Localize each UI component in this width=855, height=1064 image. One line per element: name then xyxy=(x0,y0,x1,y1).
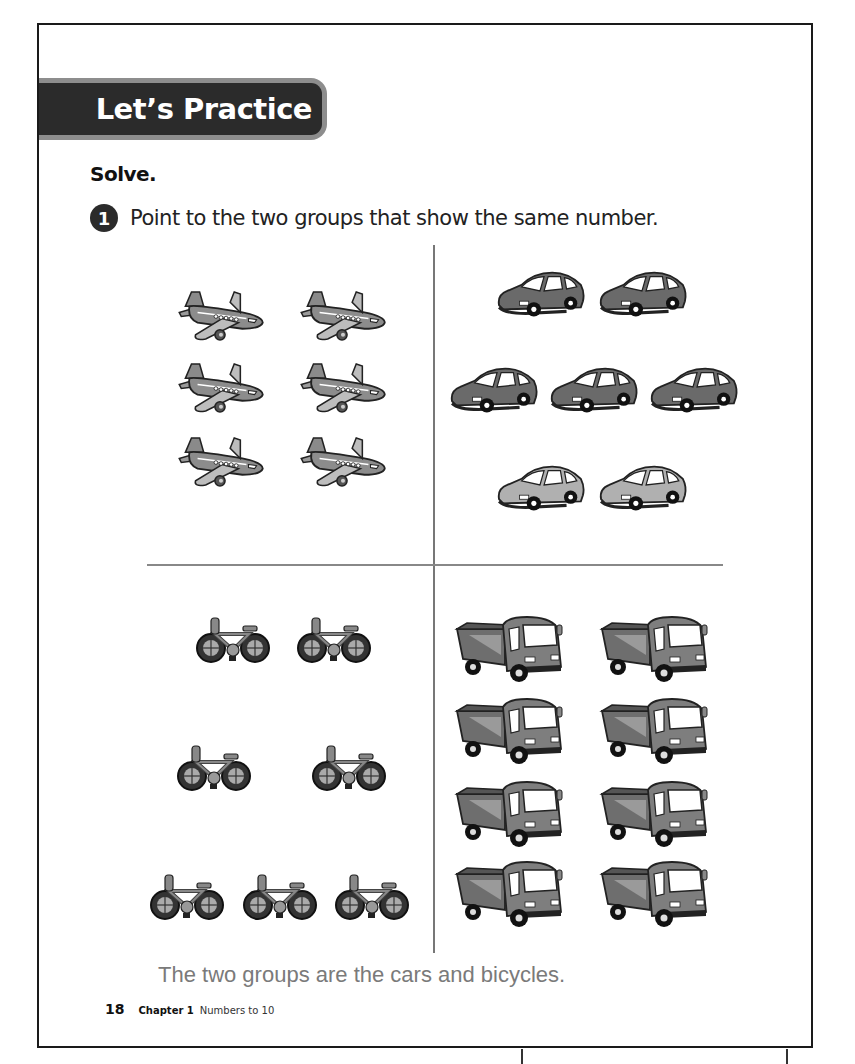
car-icon xyxy=(597,266,689,320)
truck-icon xyxy=(453,615,565,687)
bicycle-icon xyxy=(294,615,374,665)
car-icon xyxy=(495,460,587,514)
car-icon xyxy=(648,362,740,416)
section-title: Let’s Practice xyxy=(96,92,312,126)
bicycle-icon xyxy=(240,872,320,922)
bicycle-icon xyxy=(174,743,254,793)
horizontal-divider xyxy=(147,564,723,566)
airplane-icon xyxy=(297,360,389,416)
truck-icon xyxy=(453,697,565,769)
bicycle-icon xyxy=(193,615,273,665)
airplane-icon xyxy=(297,434,389,490)
section-banner: Let’s Practice xyxy=(39,78,327,140)
page-footer: 18 Chapter 1 Numbers to 10 xyxy=(105,1001,274,1017)
page-number: 18 xyxy=(105,1001,124,1017)
airplane-icon xyxy=(175,434,267,490)
airplane-icon xyxy=(175,360,267,416)
truck-icon xyxy=(598,697,710,769)
chapter-title: Numbers to 10 xyxy=(200,1005,275,1016)
answer-text: The two groups are the cars and bicycles… xyxy=(158,962,565,988)
truck-icon xyxy=(598,780,710,852)
chapter-label: Chapter 1 xyxy=(138,1005,193,1016)
instruction-label: Solve. xyxy=(90,162,156,186)
car-icon xyxy=(597,460,689,514)
car-icon xyxy=(495,266,587,320)
question-number-badge: 1 xyxy=(90,204,118,232)
bicycle-icon xyxy=(147,872,227,922)
truck-icon xyxy=(453,780,565,852)
question-1: 1 Point to the two groups that show the … xyxy=(90,204,658,232)
question-text: Point to the two groups that show the sa… xyxy=(130,206,658,230)
airplane-icon xyxy=(175,288,267,344)
car-icon xyxy=(548,362,640,416)
vertical-divider xyxy=(433,245,435,953)
truck-icon xyxy=(453,860,565,932)
car-icon xyxy=(448,362,540,416)
truck-icon xyxy=(598,615,710,687)
airplane-icon xyxy=(297,288,389,344)
page-edge-tick xyxy=(521,1049,523,1064)
bicycle-icon xyxy=(309,743,389,793)
bicycle-icon xyxy=(332,872,412,922)
truck-icon xyxy=(598,860,710,932)
page-edge-tick xyxy=(786,1049,788,1064)
